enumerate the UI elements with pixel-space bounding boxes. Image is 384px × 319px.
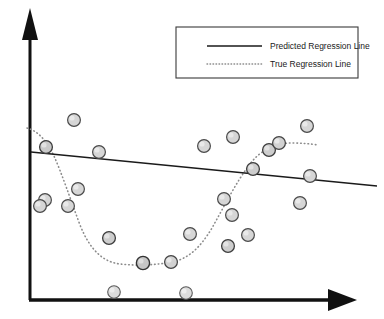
y-axis-arrow-icon xyxy=(22,8,38,40)
scatter-point xyxy=(184,228,197,241)
predicted-regression-line xyxy=(31,152,377,186)
scatter-points-group xyxy=(34,114,317,300)
scatter-point xyxy=(247,163,260,176)
scatter-point xyxy=(226,209,239,222)
scatter-point xyxy=(198,140,211,153)
scatter-point xyxy=(222,240,235,253)
scatter-point xyxy=(218,193,231,206)
scatter-point xyxy=(68,114,81,127)
scatter-point xyxy=(93,146,106,159)
scatter-point xyxy=(34,200,47,213)
scatter-point xyxy=(227,131,240,144)
scatter-point xyxy=(72,183,85,196)
scatter-plot-figure: Predicted Regression Line True Regressio… xyxy=(0,0,384,319)
scatter-point xyxy=(103,232,116,245)
scatter-point xyxy=(304,170,317,183)
scatter-point xyxy=(136,256,149,269)
scatter-point xyxy=(273,137,286,150)
scatter-point xyxy=(108,286,121,299)
x-axis-arrow-icon xyxy=(328,289,357,311)
scatter-point xyxy=(294,197,307,210)
scatter-point xyxy=(242,229,255,242)
scatter-point xyxy=(301,120,314,133)
scatter-point xyxy=(165,256,178,269)
scatter-point xyxy=(40,141,53,154)
legend: Predicted Regression Line True Regressio… xyxy=(176,27,370,78)
legend-label-predicted-regression-line: Predicted Regression Line xyxy=(270,41,370,51)
scatter-point xyxy=(180,287,193,300)
legend-label-true-regression-line: True Regression Line xyxy=(270,59,351,69)
chart-canvas: Predicted Regression Line True Regressio… xyxy=(0,0,384,319)
scatter-point xyxy=(62,200,75,213)
legend-box xyxy=(176,27,358,78)
